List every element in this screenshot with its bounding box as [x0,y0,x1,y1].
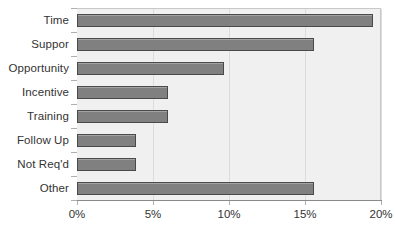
bar[interactable] [77,110,168,123]
x-axis-tick-label: 0% [55,208,99,220]
bar[interactable] [77,38,314,51]
category-label: Follow Up [17,134,73,146]
x-axis-tick [229,201,230,205]
bar[interactable] [77,14,373,27]
bar[interactable] [77,134,136,147]
category-label: Opportunity [8,62,73,74]
category-label: Suppor [31,38,73,50]
category-axis-labels: TimeSupporOpportunityIncentiveTrainingFo… [0,8,73,200]
category-label: Incentive [22,86,73,98]
bar-row [77,81,380,105]
category-label-cell: Incentive [0,80,73,104]
x-axis-tick-label: 20% [359,208,395,220]
category-label-cell: Not Req'd [0,152,73,176]
category-label: Other [40,182,73,194]
bar-row [77,128,380,152]
bar-chart: TimeSupporOpportunityIncentiveTrainingFo… [0,0,395,235]
x-axis-tick [305,201,306,205]
bar-row [77,9,380,33]
category-label-cell: Opportunity [0,56,73,80]
category-label-cell: Training [0,104,73,128]
bar-row [77,176,380,200]
bar[interactable] [77,182,314,195]
category-label-cell: Follow Up [0,128,73,152]
x-axis-tick-label: 5% [131,208,175,220]
x-axis-tick [153,201,154,205]
bar-row [77,33,380,57]
category-label-cell: Time [0,8,73,32]
category-label: Not Req'd [17,158,73,170]
category-label: Time [43,14,73,26]
x-axis-tick-label: 10% [207,208,251,220]
plot-area [77,8,381,200]
bar[interactable] [77,86,168,99]
category-label: Training [27,110,73,122]
x-axis-tick [77,201,78,205]
category-label-cell: Suppor [0,32,73,56]
bar[interactable] [77,62,224,75]
x-axis-tick [381,201,382,205]
bars-container [77,9,380,200]
bar[interactable] [77,158,136,171]
bar-row [77,57,380,81]
x-axis-tick-label: 15% [283,208,327,220]
category-label-cell: Other [0,176,73,200]
bar-row [77,105,380,129]
bar-row [77,152,380,176]
gridline [381,9,382,200]
